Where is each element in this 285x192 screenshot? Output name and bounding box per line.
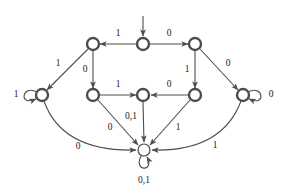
edge-start-to-topleft-label: 1: [116, 28, 121, 38]
self-loop-far-right-label: 0: [269, 89, 274, 99]
edge-farleft-to-trap-label: 0: [76, 141, 81, 151]
mid-right-state[interactable]: [189, 89, 201, 101]
edge-farleft-to-trap[interactable]: [44, 101, 136, 150]
top-right-state[interactable]: [189, 38, 201, 50]
edge-topright-to-farright[interactable]: [200, 49, 238, 90]
self-loop-far-left-label: 1: [14, 89, 19, 99]
edge-midright-to-center-label: 0: [167, 79, 172, 89]
edge-midleft-to-center-label: 1: [116, 79, 121, 89]
top-left-state[interactable]: [87, 38, 99, 50]
mid-left-state[interactable]: [87, 89, 99, 101]
center-state[interactable]: [137, 89, 149, 101]
edge-topleft-to-farleft-label: 1: [56, 58, 61, 68]
edge-topleft-to-midleft-label: 0: [83, 64, 88, 74]
far-right-state[interactable]: [237, 89, 249, 101]
automaton-canvas: 101010100,10101100,1: [0, 0, 285, 192]
start-state[interactable]: [137, 38, 149, 50]
edge-midright-to-trap-label: 1: [176, 122, 181, 132]
edge-start-to-topright-label: 0: [167, 28, 172, 38]
edge-topright-to-farright-label: 0: [226, 58, 231, 68]
automaton-diagram: 101010100,10101100,1: [0, 0, 285, 192]
edge-midright-to-trap[interactable]: [150, 100, 190, 145]
edge-center-to-trap-label: 0,1: [125, 111, 137, 121]
far-left-state[interactable]: [36, 89, 48, 101]
self-loop-trap-label: 0,1: [138, 175, 150, 185]
nodes-layer: [36, 38, 249, 156]
edge-midleft-to-trap-label: 0: [108, 122, 113, 132]
edge-farright-to-trap-label: 1: [213, 140, 218, 150]
edge-midleft-to-trap[interactable]: [98, 100, 138, 145]
trap-state[interactable]: [138, 144, 150, 156]
edge-center-to-trap[interactable]: [143, 102, 144, 142]
edge-topright-to-midright-label: 1: [185, 64, 190, 74]
self-loop-trap[interactable]: [139, 156, 149, 168]
edge-farright-to-trap[interactable]: [152, 101, 241, 150]
